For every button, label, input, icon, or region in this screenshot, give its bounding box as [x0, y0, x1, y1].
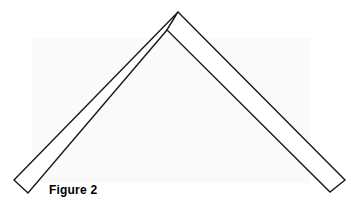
- chevron-diagram: [0, 0, 359, 209]
- shape-group: [14, 12, 345, 193]
- right-bar: [167, 12, 345, 192]
- figure-container: Figure 2: [0, 0, 359, 209]
- left-bar: [14, 12, 178, 193]
- figure-caption: Figure 2: [49, 183, 97, 197]
